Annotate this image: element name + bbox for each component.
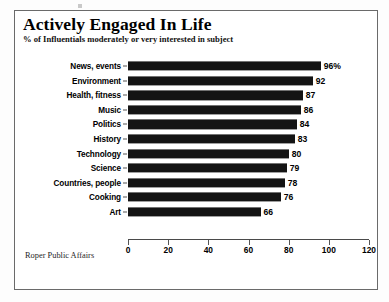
category-label: Art	[15, 207, 121, 216]
bar-row: Politics84	[15, 117, 379, 132]
plot-area: News, events96%Environment92Health, fitn…	[15, 59, 379, 239]
bar-track: 86	[128, 103, 379, 118]
bar-row: Health, fitness87	[15, 88, 379, 103]
bar	[128, 91, 303, 100]
bar-track: 87	[128, 88, 379, 103]
bar-value-label: 80	[289, 149, 302, 159]
category-label: Health, fitness	[15, 91, 121, 100]
x-axis-tick-label: 20	[163, 245, 172, 255]
bar-row: Music86	[15, 103, 379, 118]
bar	[128, 76, 313, 85]
bar-row: Art66	[15, 204, 379, 219]
y-axis-tick	[123, 139, 127, 140]
x-axis-labels: 020406080100120	[128, 245, 369, 259]
bar-track: 96%	[128, 59, 379, 74]
category-label: News, events	[15, 62, 121, 71]
bar	[128, 62, 321, 71]
x-axis-tick	[128, 240, 129, 245]
y-axis-tick	[123, 153, 127, 154]
bar-track: 84	[128, 117, 379, 132]
y-axis-tick	[123, 197, 127, 198]
bar-value-label: 83	[295, 134, 308, 144]
bar-row: Technology80	[15, 146, 379, 161]
y-axis-tick	[123, 168, 127, 169]
bar	[128, 178, 285, 187]
bar	[128, 164, 287, 173]
x-axis-tick	[289, 240, 290, 245]
bar-track: 76	[128, 190, 379, 205]
x-axis-tick-label: 100	[322, 245, 336, 255]
x-axis-tick	[208, 240, 209, 245]
bar-row: History83	[15, 132, 379, 147]
bar-value-label: 78	[285, 178, 298, 188]
category-label: History	[15, 135, 121, 144]
x-axis-tick	[249, 240, 250, 245]
bar-value-label: 66	[261, 207, 274, 217]
x-axis-tick	[369, 240, 370, 245]
bar-value-label: 96%	[321, 61, 341, 71]
chart-title: Actively Engaged In Life	[23, 14, 212, 35]
y-axis-tick	[123, 211, 127, 212]
x-axis-tick-label: 40	[204, 245, 213, 255]
x-axis-tick	[168, 240, 169, 245]
x-axis-tick-label: 0	[126, 245, 131, 255]
category-label: Technology	[15, 149, 121, 158]
bar-value-label: 86	[301, 105, 314, 115]
source-note: Roper Public Affairs	[25, 251, 94, 260]
category-label: Science	[15, 164, 121, 173]
bar	[128, 193, 281, 202]
bar-value-label: 76	[281, 192, 294, 202]
bar-track: 66	[128, 204, 379, 219]
y-axis-tick	[123, 66, 127, 67]
bar-value-label: 79	[287, 163, 300, 173]
category-label: Countries, people	[15, 178, 121, 187]
x-axis-tick-label: 120	[362, 245, 376, 255]
category-label: Politics	[15, 120, 121, 129]
bar-value-label: 92	[313, 76, 326, 86]
y-axis-tick	[123, 124, 127, 125]
x-axis-tick-label: 80	[284, 245, 293, 255]
y-axis-tick	[123, 95, 127, 96]
bar	[128, 207, 261, 216]
bar	[128, 134, 295, 143]
bar-row: Countries, people78	[15, 175, 379, 190]
bar	[128, 149, 289, 158]
bar	[128, 120, 297, 129]
bar-track: 80	[128, 146, 379, 161]
scan-speck	[78, 4, 82, 8]
y-axis-tick	[123, 80, 127, 81]
bar-row: Environment92	[15, 74, 379, 89]
bar-value-label: 84	[297, 119, 310, 129]
bar	[128, 105, 301, 114]
category-label: Cooking	[15, 193, 121, 202]
y-axis-tick	[123, 109, 127, 110]
bar-track: 78	[128, 175, 379, 190]
bar-track: 79	[128, 161, 379, 176]
x-axis-tick-label: 60	[244, 245, 253, 255]
bar-row: Cooking76	[15, 190, 379, 205]
chart-subtitle: % of Influentials moderately or very int…	[23, 34, 233, 44]
y-axis-tick	[123, 182, 127, 183]
chart-page: Actively Engaged In Life % of Influentia…	[0, 0, 389, 302]
bar-row: Science79	[15, 161, 379, 176]
chart-frame: Actively Engaged In Life % of Influentia…	[14, 10, 378, 290]
bar-row: News, events96%	[15, 59, 379, 74]
category-label: Environment	[15, 76, 121, 85]
category-label: Music	[15, 105, 121, 114]
bar-track: 83	[128, 132, 379, 147]
bar-value-label: 87	[303, 90, 316, 100]
x-axis-tick	[329, 240, 330, 245]
bar-track: 92	[128, 74, 379, 89]
